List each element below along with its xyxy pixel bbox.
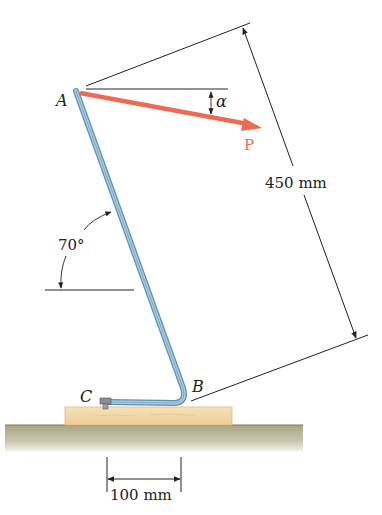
statics-diagram: A B C P α 450 mm 70° 100 mm [0, 0, 382, 515]
force-p-arrow [80, 93, 262, 131]
label-100mm: 100 mm [110, 486, 172, 504]
label-a: A [54, 91, 68, 110]
bent-rod [76, 91, 184, 403]
label-b: B [191, 377, 204, 396]
label-p: P [244, 136, 254, 154]
label-alpha: α [216, 92, 227, 111]
label-c: C [80, 387, 92, 406]
ground [5, 425, 303, 451]
label-450mm: 450 mm [265, 174, 327, 192]
wood-block [65, 407, 232, 425]
label-70deg: 70° [58, 236, 85, 254]
dimension-450 [86, 23, 368, 401]
